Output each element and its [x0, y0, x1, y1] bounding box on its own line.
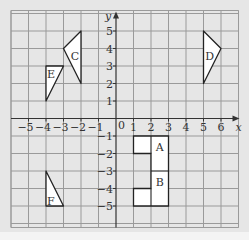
shape-label-c: C: [71, 50, 79, 63]
x-tick-label: −3: [52, 121, 68, 134]
y-tick-label: 3: [106, 60, 113, 73]
x-tick-label: 2: [148, 121, 155, 134]
y-tick-label: −3: [97, 165, 113, 178]
y-tick-label: −4: [97, 183, 113, 196]
y-tick-label: 4: [106, 43, 113, 56]
x-tick-label: −5: [17, 121, 33, 134]
shape-label-f: F: [47, 195, 55, 208]
y-tick-label: −1: [97, 130, 113, 143]
x-tick-label: −2: [70, 121, 86, 134]
coordinate-grid: −5−4−3−2−112345654321−1−2−3−4−50xy CEDFA…: [0, 0, 249, 240]
x-tick-label: 4: [183, 121, 190, 134]
x-tick-label: 1: [130, 121, 137, 134]
x-tick-label: −4: [35, 121, 51, 134]
shape-label-b: B: [156, 176, 164, 189]
y-tick-label: −5: [97, 200, 113, 213]
y-tick-label: 1: [106, 95, 113, 108]
y-tick-label: 2: [106, 78, 113, 91]
y-axis-label: y: [104, 10, 112, 23]
y-tick-label: −2: [97, 148, 113, 161]
bottom-margin: [0, 232, 249, 240]
shape-label-d: D: [205, 50, 214, 63]
x-axis-label: x: [236, 121, 243, 134]
y-tick-label: 5: [106, 25, 113, 38]
origin-label: 0: [118, 119, 125, 132]
x-tick-label: 5: [200, 121, 207, 134]
x-tick-label: 6: [218, 121, 225, 134]
x-tick-label: 3: [165, 121, 172, 134]
shape-label-a: A: [155, 141, 165, 154]
shape-label-e: E: [47, 68, 55, 81]
